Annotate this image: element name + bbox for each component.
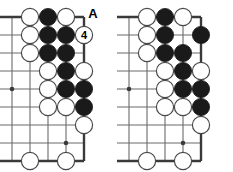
white-stone[interactable]	[138, 44, 155, 61]
go-diagram-figure: 4A Go board problem diagram pair	[0, 0, 233, 172]
white-stone[interactable]	[192, 116, 209, 133]
white-stone[interactable]	[57, 98, 74, 115]
white-stone[interactable]	[39, 80, 56, 97]
black-stone[interactable]	[57, 80, 74, 97]
black-stone[interactable]	[75, 98, 92, 115]
black-stone[interactable]	[174, 62, 191, 79]
black-stone[interactable]	[57, 62, 74, 79]
white-stone[interactable]	[21, 152, 38, 169]
white-stone[interactable]	[174, 152, 191, 169]
black-stone[interactable]	[192, 98, 209, 115]
black-stone[interactable]	[39, 26, 56, 43]
black-stone[interactable]	[156, 26, 173, 43]
white-stone[interactable]	[156, 62, 173, 79]
white-stone[interactable]	[21, 44, 38, 61]
stone-move-number: 4	[81, 29, 88, 41]
white-stone[interactable]	[192, 62, 209, 79]
star-point	[64, 141, 69, 146]
left-diagram-canvas: 4A	[0, 0, 116, 172]
black-stone[interactable]	[192, 80, 209, 97]
white-stone[interactable]	[39, 98, 56, 115]
white-stone[interactable]: 4	[75, 26, 92, 43]
white-stone[interactable]	[156, 80, 173, 97]
left-board: 4A	[0, 0, 116, 172]
black-stone[interactable]	[39, 44, 56, 61]
star-point	[10, 87, 15, 92]
white-stone[interactable]	[21, 8, 38, 25]
right-board	[117, 0, 233, 172]
white-stone[interactable]	[156, 98, 173, 115]
black-stone[interactable]	[39, 8, 56, 25]
board-point-label-a: A	[88, 6, 98, 21]
black-stone[interactable]	[174, 80, 191, 97]
white-stone[interactable]	[174, 8, 191, 25]
white-stone[interactable]	[21, 26, 38, 43]
black-stone[interactable]	[156, 44, 173, 61]
white-stone[interactable]	[57, 8, 74, 25]
star-point	[181, 141, 186, 146]
black-stone[interactable]	[192, 26, 209, 43]
white-stone[interactable]	[138, 26, 155, 43]
white-stone[interactable]	[75, 116, 92, 133]
right-diagram-canvas	[117, 0, 233, 172]
star-point	[127, 87, 132, 92]
white-stone[interactable]	[174, 98, 191, 115]
white-stone[interactable]	[75, 62, 92, 79]
white-stone[interactable]	[138, 8, 155, 25]
black-stone[interactable]	[57, 44, 74, 61]
black-stone[interactable]	[75, 80, 92, 97]
white-stone[interactable]	[39, 62, 56, 79]
white-stone[interactable]	[138, 152, 155, 169]
black-stone[interactable]	[57, 26, 74, 43]
black-stone[interactable]	[174, 44, 191, 61]
white-stone[interactable]	[57, 152, 74, 169]
black-stone[interactable]	[156, 8, 173, 25]
